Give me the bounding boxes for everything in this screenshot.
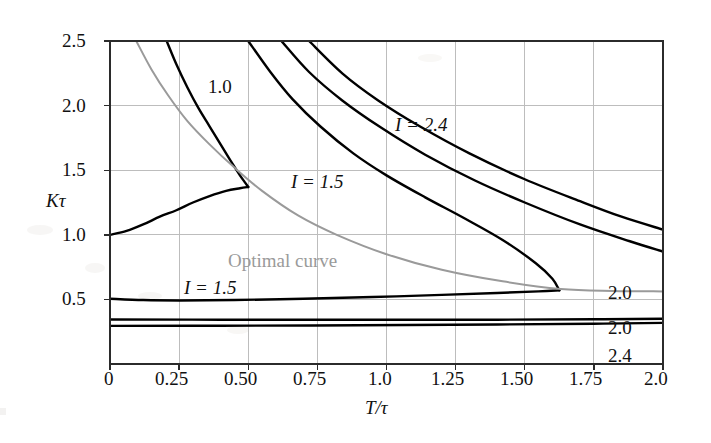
y-tick-label-1.5: 1.5 <box>62 159 86 181</box>
x-tick-label-1.75: 1.75 <box>569 368 602 390</box>
x-tick-label-0: 0 <box>104 368 114 390</box>
x-tick-label-0.75: 0.75 <box>293 368 326 390</box>
curve-label-2.0-upper: 2.0 <box>608 282 632 304</box>
y-tick-label-0.5: 0.5 <box>62 288 86 310</box>
curve-label-I-2.4: I = 2.4 <box>395 114 447 136</box>
curve-i-2-0-upper-branch <box>281 41 663 252</box>
curve-label-optimal-curve: Optimal curve <box>228 250 337 272</box>
y-tick-label-2.5: 2.5 <box>62 30 86 52</box>
curve-label-I-1.5-upper: I = 1.5 <box>291 171 343 193</box>
x-tick-label-0.50: 0.50 <box>224 368 257 390</box>
y-tick-label-2.0: 2.0 <box>62 95 86 117</box>
y-tick-label-1.0: 1.0 <box>62 224 86 246</box>
x-axis-label: T/τ <box>365 397 388 419</box>
x-tick-label-1.25: 1.25 <box>431 368 464 390</box>
curve-label-1.0: 1.0 <box>208 76 232 98</box>
curve-label-I-1.5-lower: I = 1.5 <box>184 277 236 299</box>
curve-label-2.0-lower: 2.0 <box>608 317 632 339</box>
y-axis-label: Kτ <box>46 190 65 212</box>
curve-i-2-0-lower-branch <box>110 319 663 320</box>
curve-label-2.4-lower: 2.4 <box>608 345 632 367</box>
x-tick-label-0.25: 0.25 <box>155 368 188 390</box>
curve-i-2-4-upper-branch <box>309 41 663 230</box>
x-tick-label-2.0: 2.0 <box>644 368 668 390</box>
x-tick-label-1.50: 1.50 <box>500 368 533 390</box>
x-tick-label-1.0: 1.0 <box>368 368 392 390</box>
